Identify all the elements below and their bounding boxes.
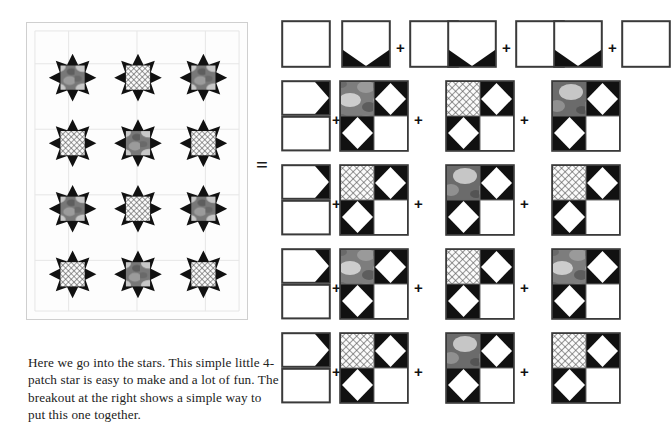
row2-plus-3: +: [520, 112, 529, 127]
quilt-star-r4c2: [114, 250, 162, 298]
row1-flying-geese-2: [447, 20, 497, 68]
row3-plus-2: +: [414, 196, 423, 211]
row5-quarter-block-hatch-2: [551, 332, 621, 404]
breakout-row-2: + +: [276, 80, 648, 154]
row5-quarter-block-hatch: [339, 332, 409, 404]
quilt-star-r3c1: [49, 185, 97, 233]
row1-flying-geese-3: [553, 20, 603, 68]
row4-plus-3: +: [520, 280, 529, 295]
row3-quarter-block-print: [445, 164, 515, 236]
row1-plain-square-1: [281, 20, 331, 68]
quilt-star-r1c3: [180, 54, 228, 102]
equals-sign: =: [256, 153, 268, 178]
breakout-diagram: + +: [276, 18, 648, 430]
quilt-star-r1c2: [114, 54, 162, 102]
row1-plus-3: +: [608, 40, 617, 55]
quilt-star-r3c2: [114, 185, 162, 233]
row2-quarter-block-print: [339, 80, 409, 152]
row4-half-unit: [281, 248, 331, 320]
row4-quarter-block-print: [339, 248, 409, 320]
row1-flying-geese-1: [341, 20, 391, 68]
row5-plus-3: +: [520, 364, 529, 379]
breakout-row-1: + +: [276, 18, 648, 70]
quilt-star-r1c1: [49, 54, 97, 102]
row2-quarter-block-print-2: [551, 80, 621, 152]
row1-plus-1: +: [396, 40, 405, 55]
quilt-layout-panel: [26, 22, 248, 320]
row3-quarter-block-hatch-2: [551, 164, 621, 236]
row5-plus-2: +: [414, 364, 423, 379]
row5-quarter-block-print: [445, 332, 515, 404]
row1-plus-2: +: [502, 40, 511, 55]
breakout-row-4: + +: [276, 248, 648, 322]
row2-quarter-block-hatch: [445, 80, 515, 152]
quilt-star-r2c2: [114, 119, 162, 167]
quilt-star-r4c3: [180, 250, 228, 298]
row3-plus-3: +: [520, 196, 529, 211]
quilt-star-r2c1: [49, 119, 97, 167]
breakout-row-3: + +: [276, 164, 648, 238]
row4-quarter-block-print-2: [551, 248, 621, 320]
row5-half-unit: [281, 332, 331, 404]
row3-half-unit: [281, 164, 331, 236]
row3-quarter-block-hatch: [339, 164, 409, 236]
breakout-row-5: + +: [276, 332, 648, 430]
row1-plain-square-4: [621, 20, 671, 68]
quilt-star-r4c1: [49, 250, 97, 298]
pattern-caption: Here we go into the stars. This simple l…: [28, 354, 280, 423]
quilt-star-r3c3: [180, 185, 228, 233]
quilt-layout-svg: [27, 23, 247, 319]
row2-half-unit: [281, 80, 331, 152]
row4-quarter-block-hatch: [445, 248, 515, 320]
row4-plus-2: +: [414, 280, 423, 295]
row2-plus-2: +: [414, 112, 423, 127]
quilt-star-r2c3: [180, 119, 228, 167]
